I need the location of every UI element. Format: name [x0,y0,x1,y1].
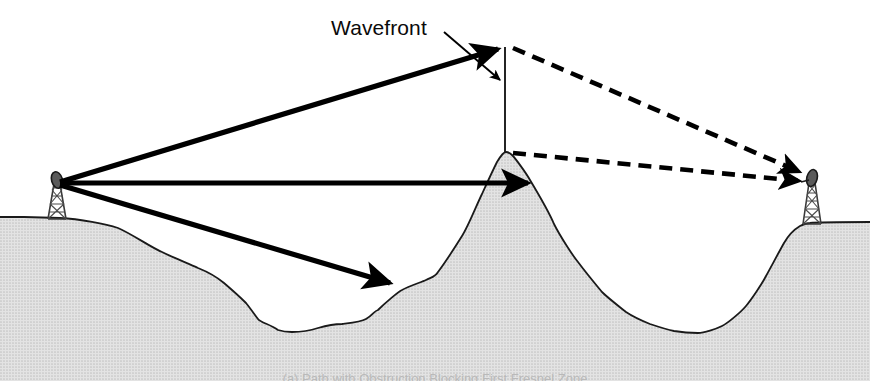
path-profile-diagram [0,0,870,381]
diffracted-ray-from-apex [513,48,800,172]
wavefront-label: Wavefront [331,16,427,40]
dashed-rays-group [513,48,800,181]
right-antenna-dish [805,168,819,187]
ray-to-wavefront-apex [60,49,498,182]
terrain-group [0,152,870,381]
diffracted-ray-from-peak [513,153,800,181]
figure-caption: (a) Path with Obstruction Blocking First… [0,371,870,381]
figure-root: Wavefront (a) Path with Obstruction Bloc… [0,0,870,381]
left-tower [48,170,67,219]
wavefront-leader-arrow [444,32,500,80]
right-tower [801,168,821,224]
terrain-fill [0,152,870,381]
